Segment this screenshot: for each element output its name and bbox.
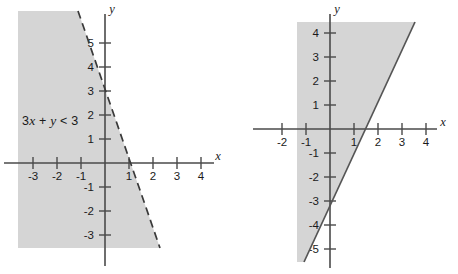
inequality-graphs-figure: -3 -2 -1 1 2 3 4 5 4 3 2 1 -1 -2 -3 [0,0,458,274]
right-y-tick-label: 3 [313,51,319,63]
right-x-tick-label: 3 [399,136,405,148]
right-x-tick-label: -2 [277,136,287,148]
left-x-tick-label: 1 [126,170,132,182]
right-y-tick-label: 4 [313,27,320,39]
left-x-tick-label: 3 [174,170,180,182]
right-y-tick-label: 2 [313,75,319,87]
left-y-tick-label: -3 [84,229,94,241]
right-graph-plot: -2 -1 1 2 3 4 4 3 2 1 -1 -2 -3 -4 -5 [229,0,458,274]
right-y-tick-label: -2 [309,171,319,183]
left-y-tick-label: -2 [84,205,94,217]
left-x-tick-label: -3 [28,170,38,182]
left-y-tick-label: 4 [88,61,95,73]
right-x-tick-label: 1 [351,136,357,148]
left-y-tick-label: 1 [88,133,94,145]
right-y-tick-label: -1 [309,147,319,159]
left-graph-plot: -3 -2 -1 1 2 3 4 5 4 3 2 1 -1 -2 -3 [0,0,229,274]
right-graph-panel: -2 -1 1 2 3 4 4 3 2 1 -1 -2 -3 -4 -5 [229,0,458,274]
left-graph-panel: -3 -2 -1 1 2 3 4 5 4 3 2 1 -1 -2 -3 [0,0,229,274]
left-y-tick-label: -1 [84,181,94,193]
left-y-axis-label: y [107,2,115,16]
right-x-axis-label: x [439,115,446,129]
left-x-axis-label: x [214,149,221,163]
left-inequality-label: 3x + y < 3 [22,113,78,129]
left-x-tick-label: 2 [150,170,156,182]
left-y-tick-label: 2 [88,109,94,121]
right-y-tick-label: 1 [313,99,319,111]
right-x-tick-label: 4 [423,136,430,148]
right-y-tick-label: -3 [309,195,319,207]
right-x-tick-label: 2 [375,136,381,148]
right-y-axis-label: y [332,2,340,16]
left-x-tick-label: 4 [198,170,205,182]
left-y-tick-label: 3 [88,85,94,97]
right-y-tick-label: -4 [309,219,320,231]
left-x-tick-label: -2 [52,170,62,182]
